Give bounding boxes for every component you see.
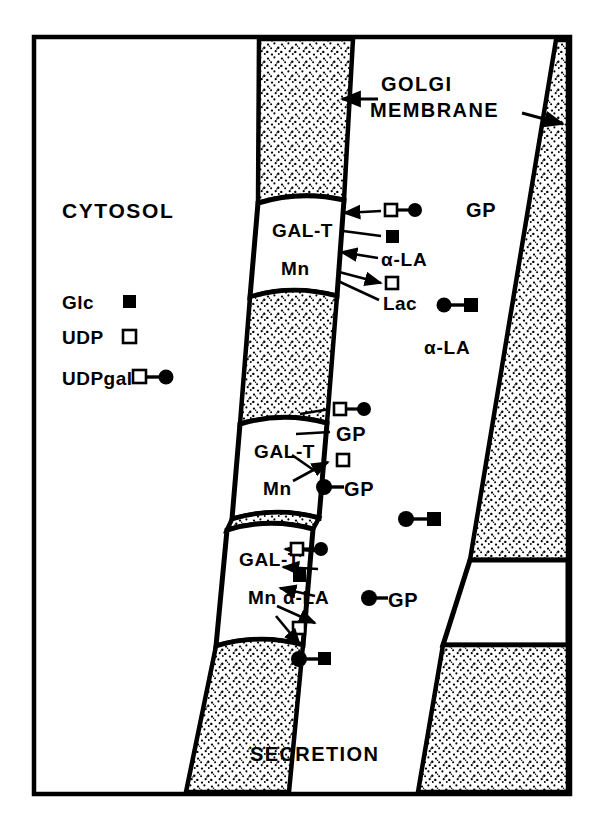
udpgal-molecule [334,402,371,416]
reaction-arrow-out [343,231,381,236]
filled-square-icon [123,295,136,308]
cytosol-label: CYTOSOL [62,199,174,222]
lumen-label-gp-upper: GP [466,199,497,221]
legend-label-udp: UDP [62,327,104,348]
alpha-la-label: α-LA [381,249,428,270]
membrane-stipple-segment [258,39,353,203]
membrane-stipple-segment [418,645,568,792]
lumen-label-gp-lower: GP [388,589,419,611]
gal-t-box-middle-label1: GAL-T [254,441,315,462]
reaction-arrow-in [344,211,381,213]
secretion-label: SECRETION [250,743,379,765]
lactose-molecule-product [291,651,331,667]
golgi-membrane-label-line1: GOLGI [381,73,452,95]
figure-canvas: CYTOSOL GOLGI MEMBRANE SECRETION Glc UDP… [0,0,601,835]
reaction-arrow-out [339,272,381,283]
gal-t-box-top[interactable] [250,196,344,297]
legend: Glc UDP UDPgal [62,292,174,389]
galactosyl-gp-molecule: GP [316,478,375,500]
lumen-label-alpha-la: α-LA [424,337,471,358]
right-golgi-membrane [418,40,568,792]
open-square-icon [337,454,349,466]
open-square-icon [123,330,136,343]
golgi-membrane-label-line2: MEMBRANE [370,99,499,121]
gal-t-box-bottom-label2: Mn [248,587,277,608]
udpgal-icon [133,370,174,385]
gal-t-box-top-label2: Mn [281,258,310,279]
legend-label-udpgal: UDPgal [62,368,133,389]
membrane-stipple-segment [186,639,303,792]
reaction-arrow-in [341,252,378,258]
alpha-la-label: α-LA [283,587,330,608]
udpgal-molecule [385,203,422,217]
membrane-stipple-segment [240,290,337,424]
gp-output-label: GP [344,478,375,500]
reaction-group-top: α-LA Lac [338,203,428,314]
open-square-icon [293,622,305,634]
golgi-diagram-svg: CYTOSOL GOLGI MEMBRANE SECRETION Glc UDP… [0,0,601,835]
lactose-molecule-mid [398,511,441,527]
lactose-molecule-upper [437,298,479,313]
legend-label-glc: Glc [62,292,94,313]
left-golgi-membrane [186,39,353,792]
gal-t-box-top-label1: GAL-T [272,220,333,241]
filled-square-icon [293,569,306,582]
gal-t-box-right-blank[interactable] [443,560,568,645]
gp-input-label: GP [336,423,367,445]
open-square-icon [386,277,398,289]
galactosyl-gp-lower: GP [361,589,419,611]
lac-label: Lac [383,293,417,314]
filled-square-icon [386,230,399,243]
reaction-arrow-out [338,281,379,300]
gal-t-box-middle-label2: Mn [263,478,292,499]
